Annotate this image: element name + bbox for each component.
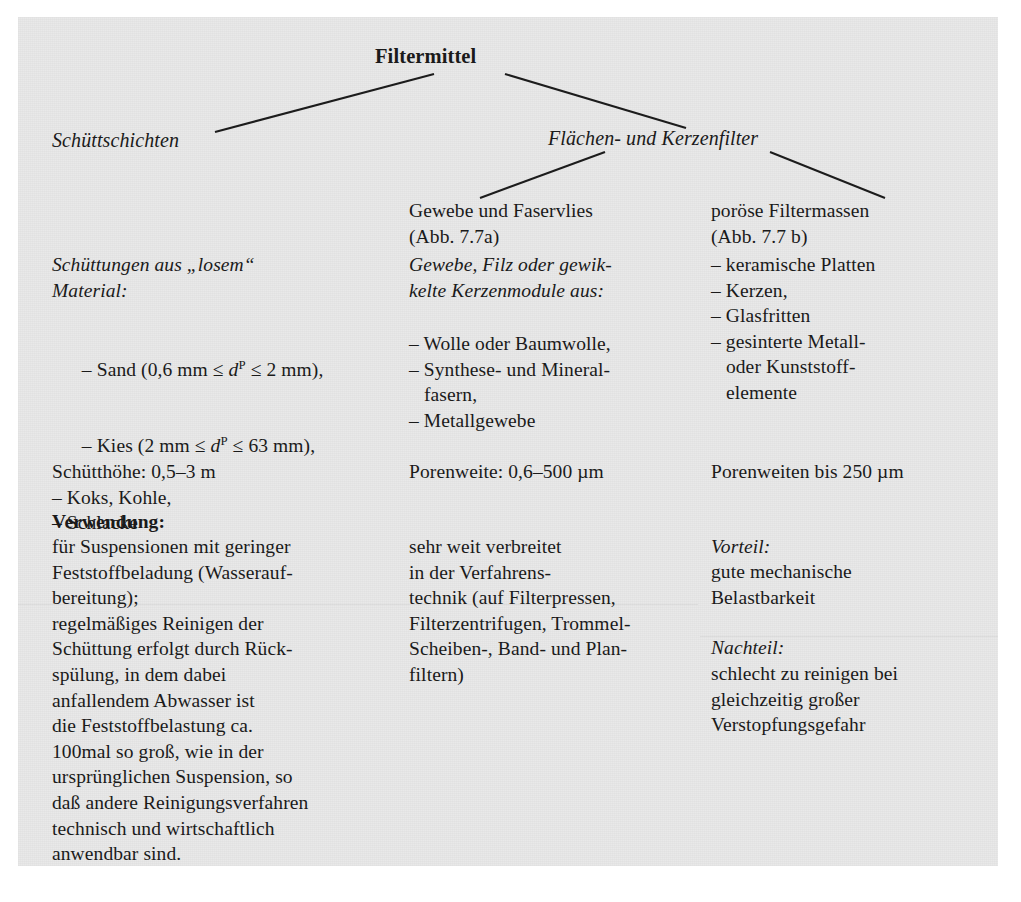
usage-line: die Feststoffbelastung ca. xyxy=(52,713,308,739)
middle-measure: Porenweite: 0,6–500 µm xyxy=(409,459,604,485)
column-left-bullets: – Sand (0,6 mm ≤ dP ≤ 2 mm), – Kies (2 m… xyxy=(52,331,323,536)
list-item: fasern, xyxy=(409,382,611,408)
disadvantage-line: Verstopfungsgefahr xyxy=(711,712,898,738)
left-heading-line-1: Schüttungen aus „losem“ xyxy=(52,252,255,278)
column-left: Schüttungen aus „losem“ Material: xyxy=(52,252,255,303)
usage-line: technisch und wirtschaftlich xyxy=(52,816,308,842)
middle-usage-body: sehr weit verbreitet in der Verfahrens- … xyxy=(409,534,631,688)
disadvantage-line: gleichzeitig großer xyxy=(711,687,898,713)
list-item: – Glasfritten xyxy=(711,303,875,329)
usage-line: regelmäßiges Reinigen der xyxy=(52,611,308,637)
column-right-heading: poröse Filtermassen (Abb. 7.7 b) xyxy=(711,198,869,249)
list-item: – keramische Platten xyxy=(711,252,875,278)
right-disadvantage-label: Nachteil: xyxy=(711,635,784,661)
right-advantage-label: Vorteil: xyxy=(711,534,770,560)
list-item: – Koks, Kohle, xyxy=(52,485,323,511)
usage-line: ursprünglichen Suspension, so xyxy=(52,764,308,790)
bullet-sand-post: ≤ 2 mm), xyxy=(246,359,324,380)
page-root: Filtermittel Schüttschichten Flächen- un… xyxy=(0,0,1021,902)
advantage-line: Belastbarkeit xyxy=(711,585,852,611)
usage-line: filtern) xyxy=(409,662,631,688)
usage-line: daß andere Reinigungsverfahren xyxy=(52,790,308,816)
list-item: – Sand (0,6 mm ≤ dP ≤ 2 mm), xyxy=(52,331,323,408)
node-root: Filtermittel xyxy=(375,44,476,70)
bullet-sand-superscript: P xyxy=(238,357,245,371)
list-item: oder Kunststoff- xyxy=(711,354,875,380)
bullet-kies-pre: – Kies (2 mm ≤ xyxy=(82,435,211,456)
right-advantage-body: gute mechanische Belastbarkeit xyxy=(711,559,852,610)
usage-line: Scheiben-, Band- und Plan- xyxy=(409,636,631,662)
middle-subheading-line: Gewebe, Filz oder gewik- xyxy=(409,252,612,278)
usage-line: sehr weit verbreitet xyxy=(409,534,631,560)
usage-line: für Suspensionen mit geringer xyxy=(52,534,308,560)
column-right-bullets: – keramische Platten – Kerzen, – Glasfri… xyxy=(711,252,875,406)
usage-line: anfallendem Abwasser ist xyxy=(52,688,308,714)
usage-line: anwendbar sind. xyxy=(52,841,308,867)
bullet-kies-post: ≤ 63 mm), xyxy=(228,435,316,456)
usage-line: Feststoffbeladung (Wasserauf- xyxy=(52,560,308,586)
usage-line: technik (auf Filterpressen, xyxy=(409,585,631,611)
bullet-kies-var: d xyxy=(211,435,221,456)
right-disadvantage-body: schlecht zu reinigen bei gleichzeitig gr… xyxy=(711,661,898,738)
bullet-kies-superscript: P xyxy=(220,434,227,448)
list-item: – Wolle oder Baumwolle, xyxy=(409,331,611,357)
advantage-line: gute mechanische xyxy=(711,559,852,585)
left-measure: Schütthöhe: 0,5–3 m xyxy=(52,459,216,485)
usage-line: in der Verfahrens- xyxy=(409,560,631,586)
left-usage-label: Verwendung: xyxy=(52,509,165,535)
right-heading-line: (Abb. 7.7 b) xyxy=(711,224,869,250)
column-middle-heading: Gewebe und Faservlies (Abb. 7.7a) xyxy=(409,198,593,249)
disadvantage-line: schlecht zu reinigen bei xyxy=(711,661,898,687)
left-heading-line-2: Material: xyxy=(52,278,255,304)
bullet-sand-pre: – Sand (0,6 mm ≤ xyxy=(82,359,229,380)
list-item: – gesinterte Metall- xyxy=(711,329,875,355)
usage-line: Schüttung erfolgt durch Rück- xyxy=(52,636,308,662)
middle-heading-line: (Abb. 7.7a) xyxy=(409,224,593,250)
list-item: – Synthese- und Mineral- xyxy=(409,357,611,383)
usage-line: 100mal so groß, wie in der xyxy=(52,739,308,765)
left-usage-body: für Suspensionen mit geringer Feststoffb… xyxy=(52,534,308,867)
column-middle-subheading: Gewebe, Filz oder gewik- kelte Kerzenmod… xyxy=(409,252,612,303)
usage-line: bereitung); xyxy=(52,585,308,611)
bullet-sand-var: d xyxy=(229,359,239,380)
node-schuettschichten: Schüttschichten xyxy=(52,128,179,154)
node-flaechen-kerzenfilter: Flächen- und Kerzenfilter xyxy=(548,126,758,152)
list-item: – Kerzen, xyxy=(711,278,875,304)
column-middle-bullets: – Wolle oder Baumwolle, – Synthese- und … xyxy=(409,331,611,433)
usage-line: spülung, in dem dabei xyxy=(52,662,308,688)
middle-heading-line: Gewebe und Faservlies xyxy=(409,198,593,224)
right-measure: Porenweiten bis 250 µm xyxy=(711,459,904,485)
list-item: elemente xyxy=(711,380,875,406)
usage-line: Filterzentrifugen, Trommel- xyxy=(409,611,631,637)
middle-subheading-line: kelte Kerzenmodule aus: xyxy=(409,278,612,304)
list-item: – Metallgewebe xyxy=(409,408,611,434)
right-heading-line: poröse Filtermassen xyxy=(711,198,869,224)
